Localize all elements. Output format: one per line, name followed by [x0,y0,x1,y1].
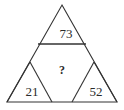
triangle-puzzle-figure: 73 21 ? 52 [0,0,124,110]
bottom-left-triangle-value: 21 [26,84,39,99]
figure-background [0,0,124,110]
bottom-right-triangle-value: 52 [90,84,103,99]
top-triangle-value: 73 [60,26,73,41]
center-unknown-value: ? [59,63,65,77]
triangle-diagram-canvas: 73 21 ? 52 [0,0,124,110]
